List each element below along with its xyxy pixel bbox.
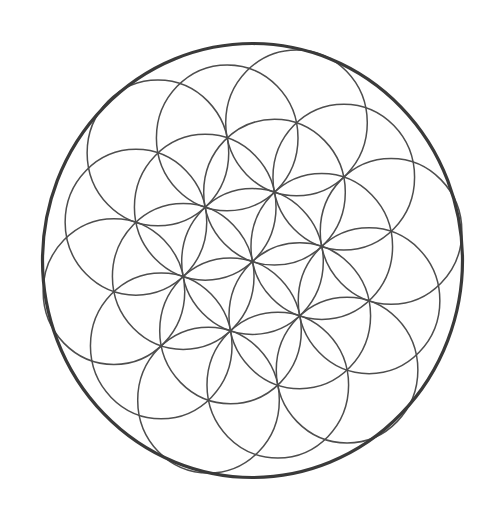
flower-of-life-diagram <box>0 0 499 518</box>
pattern-circles <box>43 50 462 473</box>
